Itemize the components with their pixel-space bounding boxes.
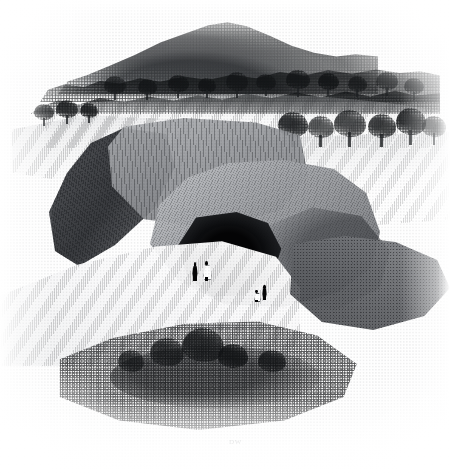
cave-mouth (176, 212, 288, 304)
tree-crown (376, 72, 398, 90)
figure-legs (263, 297, 266, 300)
tree-crown (308, 116, 334, 138)
tree (56, 100, 78, 124)
tree (334, 110, 366, 146)
tree (138, 79, 157, 100)
upper-cliff-face (108, 118, 308, 228)
tree-crown (396, 108, 426, 135)
right-meadow-hatching (210, 132, 450, 227)
figure-legs (255, 300, 258, 303)
tree-crown (34, 104, 54, 120)
human-figure (203, 261, 210, 281)
left-field-hatching (12, 112, 192, 192)
tree (308, 116, 334, 146)
tree-crown (422, 116, 446, 137)
tree (198, 78, 216, 98)
figure-head (194, 262, 197, 267)
tree-crown (348, 76, 367, 92)
edge-fade (0, 0, 450, 474)
tree-crown (168, 75, 189, 92)
tree-trunk (146, 92, 148, 100)
tree-crown (80, 103, 98, 118)
lower-right-spur (290, 236, 450, 336)
tree-trunk (291, 133, 294, 147)
scree-slope (0, 236, 300, 366)
great-rock-shadow (260, 205, 390, 315)
tree (286, 70, 310, 96)
scree-slope-hatching (0, 236, 300, 366)
foreground-bush (182, 328, 224, 362)
right-meadow (210, 132, 450, 227)
tree (256, 74, 276, 96)
tree-crown (318, 73, 339, 90)
tree (226, 72, 248, 97)
foreground-rubble (40, 312, 370, 430)
tree-crown (334, 110, 366, 137)
foreground-bush (258, 350, 286, 372)
tree-trunk (327, 87, 329, 96)
near-tree-belt (30, 74, 440, 114)
lower-right-spur-texture (290, 236, 450, 336)
figure-body (262, 288, 267, 297)
tree-trunk (356, 89, 358, 97)
tree-crown (278, 112, 308, 137)
upper-cliff-hatching (108, 118, 308, 228)
tree-trunk (319, 135, 321, 147)
figure-head (255, 290, 257, 293)
tree-trunk (409, 130, 412, 144)
figure-head (205, 261, 208, 266)
tree-crown (286, 70, 310, 89)
paper-grain (0, 0, 450, 474)
tree (318, 73, 339, 96)
tree-crown (226, 72, 248, 91)
tree-crown (404, 78, 424, 94)
figure-head (263, 285, 265, 289)
human-figure (192, 262, 198, 281)
tree-trunk (114, 91, 116, 101)
tree (278, 112, 308, 146)
background-hill (58, 16, 378, 94)
corner-fade (0, 0, 450, 474)
figure-legs (193, 277, 196, 281)
tree (34, 104, 54, 126)
tree-trunk (380, 134, 383, 147)
tree-trunk (433, 133, 435, 144)
plateau-field (45, 88, 440, 148)
background-hill-texture (58, 16, 378, 94)
tree-trunk (348, 132, 351, 146)
tree (422, 116, 446, 144)
artist-monogram: DW (229, 439, 242, 446)
tree-crown (104, 76, 126, 94)
tree (168, 75, 189, 98)
figure-body (254, 293, 261, 302)
tree-trunk (265, 88, 267, 97)
tree (80, 103, 98, 123)
tree-crown (198, 78, 216, 93)
foreground-bush (218, 344, 248, 368)
cave-interior-dark (196, 226, 262, 288)
figure-body (192, 266, 198, 278)
great-rock-hatching (150, 160, 380, 310)
bush-layer (0, 0, 450, 474)
paper-ground (0, 0, 450, 474)
tree-crown (256, 74, 276, 90)
figure-body (203, 265, 212, 279)
tree-crown (368, 114, 396, 138)
left-chasm-wall-hatching (46, 128, 196, 278)
plateau-hatching (45, 88, 440, 148)
foreground-bush (150, 338, 184, 366)
great-rock-mass (150, 160, 380, 310)
tree-layer (0, 0, 450, 474)
human-figure (254, 290, 259, 302)
tree-trunk (177, 89, 179, 98)
tree (376, 72, 398, 96)
far-tree-belt (40, 58, 440, 102)
tree-trunk (386, 87, 388, 97)
tree-trunk (66, 115, 68, 125)
figure-legs (205, 277, 209, 281)
tree-trunk (88, 115, 90, 123)
engraving-plate: DW (0, 0, 450, 474)
human-figure (262, 285, 267, 300)
tree-trunk (236, 88, 238, 98)
tree (104, 76, 126, 100)
